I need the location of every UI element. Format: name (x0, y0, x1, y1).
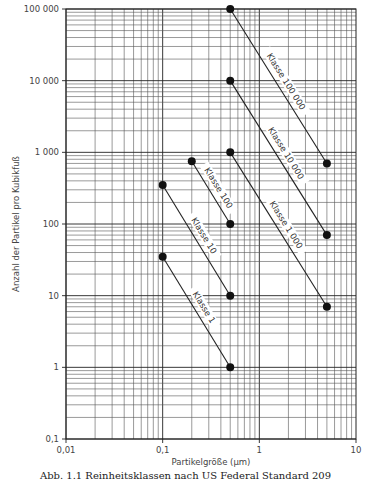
x-tick-label: 10 (351, 445, 362, 455)
y-tick-label: 10 (48, 291, 59, 301)
data-point-marker (159, 253, 167, 261)
x-axis-title: Partikelgröße (µm) (172, 457, 251, 467)
data-point-marker (226, 292, 234, 300)
grid-lines (66, 9, 356, 439)
data-point-marker (323, 231, 331, 239)
y-tick-label: 100 000 (24, 4, 59, 14)
data-point-marker (226, 77, 234, 85)
data-point-marker (323, 303, 331, 311)
y-tick-label: 10 000 (29, 76, 59, 86)
data-point-marker (226, 220, 234, 228)
data-point-marker (159, 181, 167, 189)
series-line (163, 257, 231, 368)
series-label-group: Klasse 100 000 (262, 46, 311, 116)
y-tick-label: 1 (54, 362, 59, 372)
series-label: Klasse 100 000 (265, 51, 308, 111)
data-point-marker (226, 363, 234, 371)
series-line (163, 185, 231, 296)
particle-class-chart: 0,11101001 00010 000100 000 0,010,1110 K… (0, 0, 371, 483)
data-point-marker (226, 148, 234, 156)
data-point-marker (226, 5, 234, 13)
x-tick-label: 0,01 (57, 445, 76, 455)
y-tick-label: 100 (43, 219, 59, 229)
series-klasse-1: Klasse 1 (159, 253, 235, 372)
series-label-group: Klasse 10 000 (263, 120, 309, 186)
y-tick-label: 1 000 (35, 147, 59, 157)
series-label: Klasse 1 (191, 290, 218, 325)
y-tick-label: 0,1 (45, 434, 59, 444)
series-label-group: Klasse 100 (200, 161, 238, 214)
series-label-group: Klasse 1 (188, 285, 220, 329)
data-point-marker (188, 157, 196, 165)
y-axis-title: Anzahl der Partikel pro Kubikfuß (11, 156, 21, 292)
y-axis-ticks: 0,11101001 00010 000100 000 (24, 4, 66, 444)
x-tick-label: 1 (257, 445, 262, 455)
series-klasse-1-000: Klasse 1 000 (226, 148, 331, 310)
series-label: Klasse 10 000 (266, 125, 306, 181)
x-tick-label: 0,1 (156, 445, 170, 455)
data-point-marker (323, 159, 331, 167)
series-lines: Klasse 100 000Klasse 10 000Klasse 1 000K… (159, 5, 331, 371)
x-axis-ticks: 0,010,1110 (57, 439, 362, 455)
figure-caption: Abb. 1.1 Reinheitsklassen nach US Federa… (0, 470, 371, 483)
series-label-group: Klasse 1 000 (264, 194, 308, 256)
series-line (230, 152, 327, 306)
